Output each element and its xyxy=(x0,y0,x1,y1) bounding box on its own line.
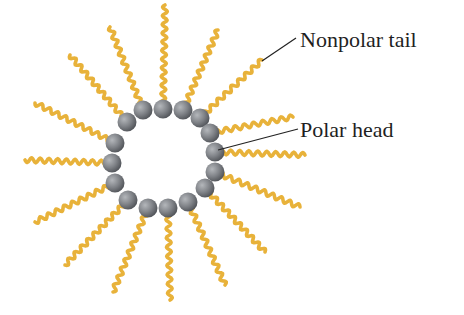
nonpolar-tail xyxy=(161,5,168,109)
nonpolar-tail xyxy=(205,188,266,252)
polar-head xyxy=(206,143,225,162)
nonpolar-tail xyxy=(215,150,305,157)
polar-head xyxy=(119,191,138,210)
polar-heads xyxy=(103,100,225,218)
nonpolar-tail xyxy=(25,158,112,165)
nonpolar-tail xyxy=(69,55,127,122)
polar-head xyxy=(118,113,137,132)
polar-head xyxy=(106,134,125,153)
nonpolar-tail xyxy=(35,182,115,223)
polar-head-label: Polar head xyxy=(300,119,393,141)
polar-head xyxy=(134,101,153,120)
nonpolar-tail xyxy=(113,208,148,292)
nonpolar-tail-label: Nonpolar tail xyxy=(300,29,417,51)
micelle-diagram: Nonpolar tail Polar head xyxy=(0,0,464,315)
nonpolar-tails xyxy=(25,5,305,300)
nonpolar-tail xyxy=(166,208,173,300)
nonpolar-tail xyxy=(65,200,128,266)
nonpolar-tail xyxy=(200,60,262,119)
nonpolar-tail xyxy=(187,202,227,285)
nonpolar-tail xyxy=(183,30,218,110)
polar-head xyxy=(139,199,158,218)
polar-head xyxy=(206,163,225,182)
polar-head xyxy=(179,193,198,212)
nonpolar-tail-leader-line xyxy=(262,38,296,61)
polar-head xyxy=(103,154,122,173)
nonpolar-tail xyxy=(210,115,293,135)
polar-head xyxy=(154,100,173,119)
polar-head xyxy=(174,101,193,120)
polar-head xyxy=(201,124,220,143)
nonpolar-tail xyxy=(109,27,145,110)
nonpolar-tail xyxy=(215,172,300,207)
polar-head xyxy=(196,179,215,198)
nonpolar-tail xyxy=(35,103,115,143)
polar-head xyxy=(106,174,125,193)
polar-head xyxy=(159,199,178,218)
